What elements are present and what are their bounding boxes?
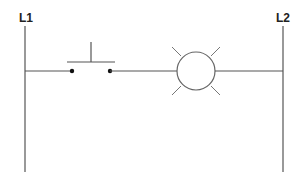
l1-label: L1 [19,12,33,24]
lamp-circle [177,52,215,90]
lamp-ray-top-left [172,47,181,56]
pilot-lamp-icon [172,47,220,95]
push-button-icon [67,42,115,73]
diagram-canvas [0,0,303,179]
lamp-ray-bottom-left [172,86,181,95]
lamp-ray-top-right [211,47,220,56]
ladder-diagram: L1 L2 [0,0,303,179]
button-left-contact [70,69,74,73]
lamp-ray-bottom-right [211,86,220,95]
l2-label: L2 [276,12,290,24]
